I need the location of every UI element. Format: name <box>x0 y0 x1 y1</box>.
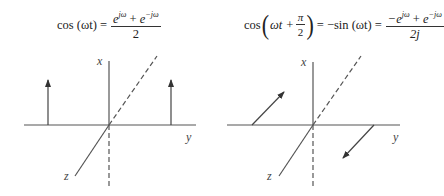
left-axes <box>24 56 196 187</box>
left-y-label: y <box>186 130 191 145</box>
right-z-label: z <box>267 169 272 184</box>
right-phasor-arrow-2 <box>343 125 374 158</box>
right-axes <box>227 56 400 187</box>
right-z-axis <box>279 125 313 176</box>
left-z-label: z <box>64 169 69 184</box>
left-z-axis-dashed <box>109 56 157 125</box>
right-y-label: y <box>393 130 398 145</box>
right-phasor-arrow-1 <box>252 92 284 125</box>
left-x-label: x <box>97 54 102 69</box>
right-z-axis-dashed <box>313 56 361 125</box>
right-x-label: x <box>301 55 306 70</box>
left-z-axis <box>75 125 109 176</box>
